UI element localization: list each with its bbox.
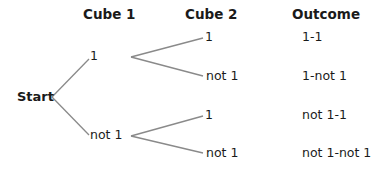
node-cube2-1a: 1	[205, 30, 213, 44]
node-cube1-not1: not 1	[90, 128, 122, 142]
branch-start-to-1	[52, 59, 89, 97]
branch-1-to-1	[131, 38, 203, 57]
branch-lines	[0, 0, 389, 169]
node-start: Start	[17, 90, 54, 104]
node-cube2-not1a: not 1	[206, 69, 238, 83]
header-cube-1: Cube 1	[83, 6, 135, 22]
header-outcome: Outcome	[292, 6, 360, 22]
branch-start-to-not1	[52, 97, 89, 135]
outcome-1: 1-1	[302, 30, 322, 44]
outcome-3: not 1-1	[302, 108, 347, 122]
header-cube-2: Cube 2	[185, 6, 237, 22]
branch-not1-to-not1	[131, 136, 203, 153]
outcome-4: not 1-not 1	[302, 146, 371, 160]
node-cube2-not1b: not 1	[206, 146, 238, 160]
node-cube2-1b: 1	[205, 108, 213, 122]
node-cube1-1: 1	[90, 49, 98, 63]
outcome-2: 1-not 1	[302, 69, 347, 83]
branch-not1-to-1	[131, 116, 203, 136]
branch-1-to-not1	[131, 57, 203, 76]
